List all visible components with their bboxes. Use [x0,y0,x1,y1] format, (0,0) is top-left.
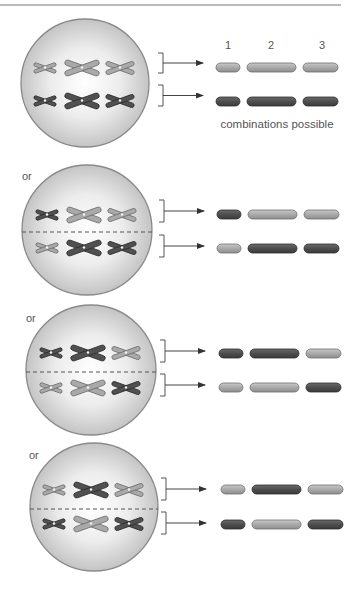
cell-body [26,305,156,435]
gamete-bar-top-3 [304,210,339,219]
or-label: or [26,312,36,324]
bracket-bottom [159,235,164,257]
bracket-top [161,478,166,500]
gamete-bar-bottom-3 [306,383,341,392]
gamete-bar-bottom-3 [303,97,338,106]
gamete-bar-bottom-2 [248,244,297,253]
gamete-bar-bottom-1 [216,97,240,106]
independent-assortment-diagram: 1 2 3 combinations possible ororor [0,0,363,591]
gamete-bar-top-3 [306,349,341,358]
cell-block-4: or [29,443,343,571]
cells-layer: ororor [21,19,343,571]
gamete-bar-bottom-2 [247,97,296,106]
cell-body [21,19,149,147]
gamete-bar-top-1 [216,63,240,72]
column-number-1: 1 [225,39,231,51]
cell-body [30,443,158,571]
gamete-bar-bottom-3 [304,244,339,253]
or-label: or [29,449,39,461]
cell-body [22,165,152,295]
gamete-bar-top-2 [247,63,296,72]
combinations-caption: combinations possible [220,118,333,130]
bracket-top [158,53,163,73]
gamete-bar-bottom-2 [252,520,301,529]
bracket-bottom [160,374,165,396]
column-number-2: 2 [268,39,274,51]
gamete-bar-bottom-2 [250,383,299,392]
gamete-bar-top-3 [308,485,343,494]
gamete-bar-top-2 [252,485,301,494]
or-label: or [22,170,32,182]
gamete-bar-top-3 [303,63,338,72]
bracket-bottom [158,85,163,106]
cell-block-3: or [26,305,341,435]
gamete-bar-bottom-3 [308,520,343,529]
gamete-bar-bottom-1 [219,383,243,392]
cell-block-2: or [22,165,339,295]
gamete-bar-top-1 [219,349,243,358]
gamete-bar-top-1 [217,210,241,219]
gamete-bar-bottom-1 [217,244,241,253]
bracket-bottom [161,512,166,534]
gamete-bar-top-2 [248,210,297,219]
gamete-bar-bottom-1 [221,520,245,529]
bracket-top [160,340,165,362]
bracket-top [159,200,164,222]
gamete-bar-top-1 [221,485,245,494]
column-number-3: 3 [319,39,325,51]
gamete-bar-top-2 [250,349,299,358]
